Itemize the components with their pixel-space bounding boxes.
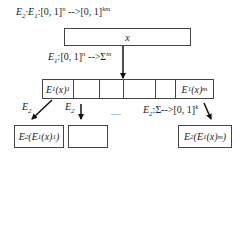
output-box-last: E2(E1(x)m) [178, 125, 232, 148]
e2-label-second: E2 [65, 102, 75, 115]
output-text: ) [56, 131, 59, 142]
label-text: :Σ-->[0, 1] [153, 104, 196, 115]
output-text: (E [194, 131, 203, 142]
label-sup: k [195, 103, 198, 111]
e2-mapping-label: E2:Σ-->[0, 1]k [143, 104, 198, 118]
label-sub: 2 [28, 107, 32, 115]
output-text: ) [223, 131, 226, 142]
output-box-empty [68, 125, 108, 148]
output-text: (x) [41, 131, 52, 142]
ellipsis: ..... [111, 109, 121, 117]
arrow-first-output [32, 100, 52, 119]
arrow-last-output [204, 103, 211, 119]
output-text: (E [28, 131, 37, 142]
label-sub: 2 [71, 107, 75, 115]
output-text: (x) [207, 131, 218, 142]
output-box-first: E2(E1(x)1) [14, 125, 64, 148]
e2-label-first: E2 [22, 102, 32, 115]
